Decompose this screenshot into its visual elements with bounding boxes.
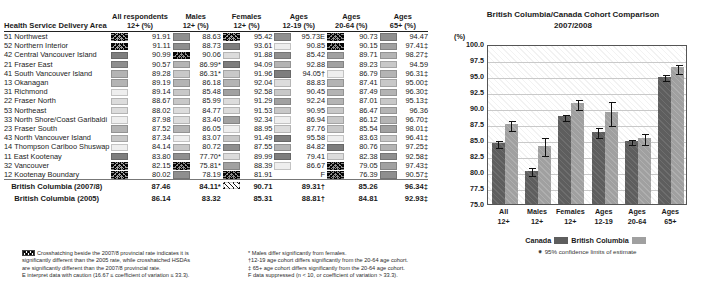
rate-shade-swatch [274,79,291,86]
rate-shade-swatch [327,153,344,160]
rate-shade-swatch [327,144,344,151]
rate-shade-swatch [111,171,128,178]
rate-shade-swatch [111,61,128,68]
table-cell-value: 92.24 [272,96,325,105]
rate-shade-swatch [223,171,240,178]
row-header-label: Health Service Delivery Area [4,21,109,32]
table-corner-blank [4,12,109,21]
chart-y-axis: 100.097.595.092.590.087.585.082.580.077.… [432,45,484,205]
rate-shade-swatch [327,135,344,142]
footnote-right-line-2: †12-19 age cohort differs significantly … [248,257,448,264]
rate-value: 90.95 [307,106,326,115]
rate-shade-swatch [173,144,190,151]
chart-y-tick-label: 85.0 [470,137,484,145]
table-row: 11 East Kootenay83.8077.70*89.9979.4182.… [4,152,428,161]
x-label-line2: 12-19 [594,217,612,226]
table-cell-value: 88.63 [171,32,221,42]
table-cell-value: 80.02 [109,170,170,180]
rate-shade-swatch [223,43,240,50]
row-label-hsda: 13 Okanagan [4,78,109,87]
rate-shade-swatch [327,116,344,123]
rate-value: 95.73E [302,32,325,41]
footnote-left-line-2: significantly different than the 2005 ra… [22,257,232,264]
rate-value: 96.30‡ [405,87,428,96]
chart-error-bar [611,102,612,126]
rate-value: 84.14 [152,142,171,151]
rate-value: 90.85 [307,41,326,50]
table-cell-value: 87.01 [325,96,378,105]
legend-label-canada: Canada [525,236,551,245]
table-cell-value: 91.29 [221,96,273,105]
summary-cell-value: 86.14 [109,193,170,205]
rate-shade-swatch [173,162,190,169]
rate-shade-swatch [173,153,190,160]
rate-value: 83.07 [202,133,221,142]
row-label-hsda: 32 Vancouver [4,161,109,170]
chart-gridline [488,78,686,79]
table-cell-value: 82.38 [325,152,378,161]
table-cell-value: 86.18 [171,78,221,87]
rate-shade-swatch [173,171,190,178]
summary-cell-value: 83.32 [171,193,221,205]
rate-shade-swatch [274,43,291,50]
table-cell-value: F [272,170,325,180]
table-cell-value: 97.25‡ [378,142,428,151]
table-cell-value: 86.05 [171,124,221,133]
rate-value: 84.81 [359,194,378,203]
chart-x-axis-labels: All12+Males12+Females12+Ages12-19Ages20-… [487,207,687,231]
table-cell-value: 96.36 [378,106,428,115]
rate-value: 86.18 [202,78,221,87]
rate-value: 84.77 [202,106,221,115]
chart-error-legend-text: 95% confidence limits of estimate [545,248,637,255]
table-cell-value: 86.12 [325,115,378,124]
chart-gridline [488,110,686,111]
rate-value: 85.99 [202,96,221,105]
summary-cell-value: 85.26 [325,180,378,193]
table-cell-value: 91.96 [221,69,273,78]
rate-value: 90.45 [307,87,326,96]
rate-shade-swatch [223,61,240,68]
rate-value: 86.99* [199,60,220,69]
rate-value: 95.58 [307,133,326,142]
rate-shade-swatch [327,79,344,86]
rate-shade-swatch [173,33,190,40]
table-cell-value: 87.98 [109,115,170,124]
rate-value: 96.34‡ [405,182,428,191]
table-cell-value: 95.73E [272,32,325,42]
rate-value: 86.14 [152,194,171,203]
summary-row-label: British Columbia (2007/8) [4,180,109,193]
rate-value: 86.79 [359,69,378,78]
col-header-females-bottom: 12+ (%) [221,21,273,32]
table-cell-value: 91.91 [109,32,170,42]
table-row: 23 Fraser South87.5286.0588.9587.7685.54… [4,124,428,133]
table-cell-value: 81.91 [221,170,273,180]
rate-shade-swatch [327,98,344,105]
table-cell-value: 88.39 [221,161,273,170]
table-summary-row: British Columbia (2005)86.1483.3285.3188… [4,193,428,205]
rate-shade-swatch [274,52,291,59]
rate-value: 97.43‡ [405,161,428,170]
table-cell-value: 76.39 [325,170,378,180]
footnote-left-block: Crosshatching beside the 2007/8 provinci… [22,250,232,280]
chart-y-tick-label: 82.5 [470,153,484,161]
rate-shade-swatch [274,135,291,142]
rate-value: 94.09 [254,60,273,69]
chart-error-bar [678,65,679,75]
footnote-right-line-3: ‡ 65+ age cohort differs significantly f… [248,265,448,272]
table-cell-value: 80.72 [171,142,221,151]
rate-value: 86.12 [359,115,378,124]
footnote-right-line-4: F data suppressed (n < 10, or coefficien… [248,272,448,279]
rate-value: 80.72 [202,142,221,151]
table-cell-value: 89.19 [109,78,170,87]
chart-x-tick-label: Males12+ [520,207,553,226]
rate-value: 85.54 [359,124,378,133]
rate-shade-swatch [380,125,397,132]
chart-error-bar [632,140,633,146]
rate-value: 88.67 [152,96,171,105]
rate-value: 91.91 [152,32,171,41]
x-label-line1: All [499,207,508,216]
chart-y-unit-label: (%) [454,32,465,41]
table-header-row-top: All respondents Males Females Ages Ages … [4,12,428,21]
rate-value: 89.28 [152,69,171,78]
col-header-all-top: All respondents [109,12,170,21]
